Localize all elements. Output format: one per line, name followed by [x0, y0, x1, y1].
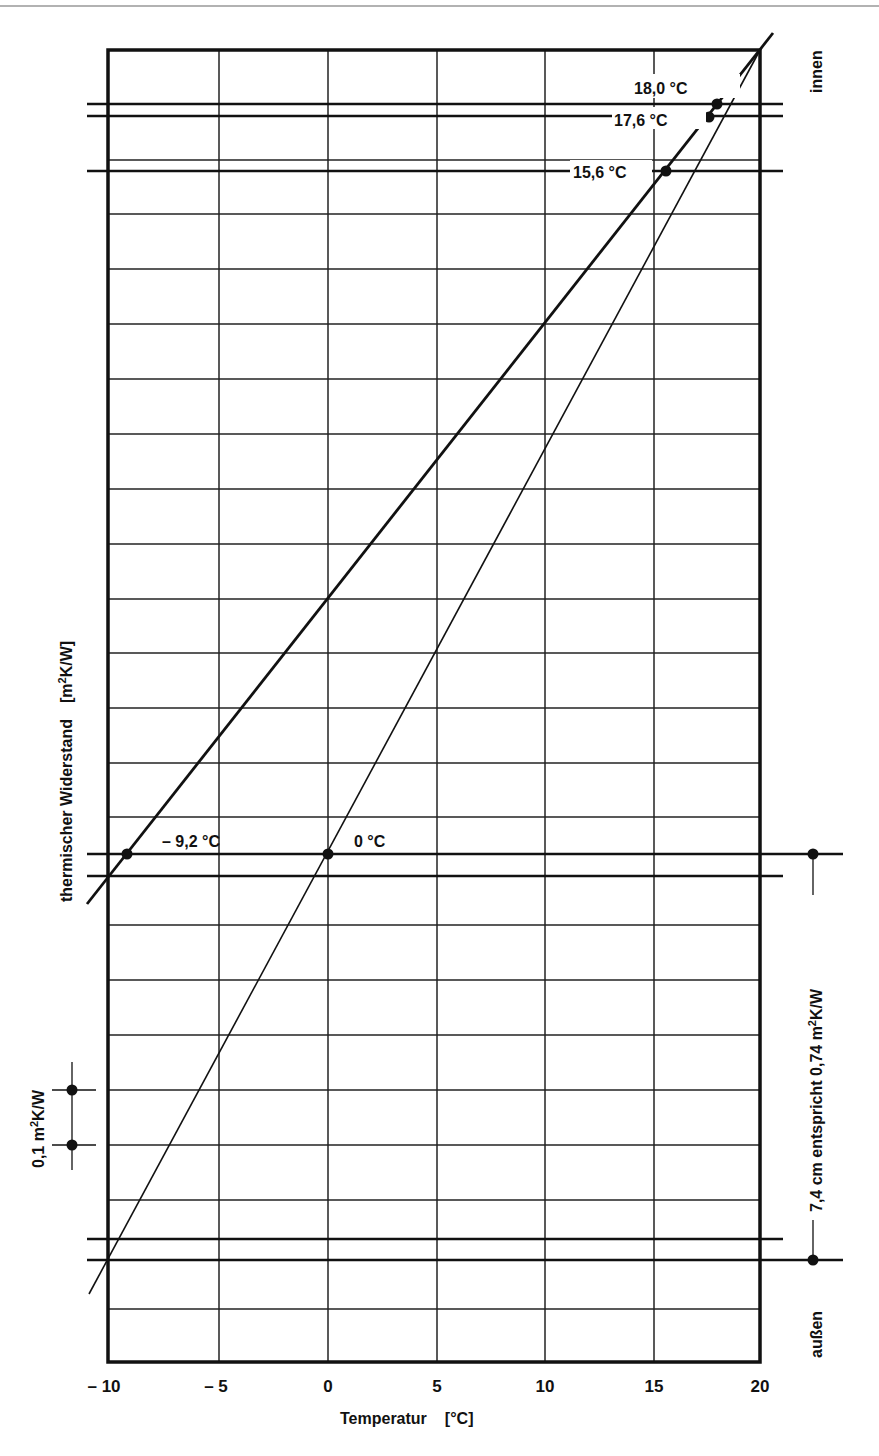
- x-tick: 15: [645, 1377, 664, 1396]
- horizontal-grid: [108, 160, 760, 1309]
- y-axis-title: thermischer Widerstand[m2K/W]: [56, 641, 75, 902]
- x-tick: – 5: [204, 1377, 228, 1396]
- point-18-0: [712, 99, 723, 110]
- thick-temperature-line: [87, 33, 773, 904]
- point-15-6: [661, 166, 672, 177]
- x-axis-ticks: – 10 – 5 0 5 10 15 20: [87, 1377, 769, 1396]
- x-tick: 0: [323, 1377, 332, 1396]
- plot-frame: [108, 50, 760, 1362]
- vertical-grid: [219, 50, 654, 1362]
- x-axis-title: Temperatur[°C]: [340, 1410, 473, 1427]
- label-17-6: 17,6 °C: [614, 112, 668, 129]
- x-tick: 20: [751, 1377, 770, 1396]
- left-scale-note: 0,1 m2K/W: [28, 1089, 47, 1168]
- x-tick: – 10: [87, 1377, 120, 1396]
- label-15-6: 15,6 °C: [573, 164, 627, 181]
- point-minus-9-2: [122, 849, 133, 860]
- x-tick: 5: [432, 1377, 441, 1396]
- label-innen: innen: [808, 50, 825, 93]
- label-0: 0 °C: [354, 833, 386, 850]
- thin-temperature-line: [89, 50, 760, 1294]
- label-minus-9-2: – 9,2 °C: [162, 833, 220, 850]
- label-aussen: außen: [808, 1311, 825, 1358]
- x-tick: 10: [536, 1377, 555, 1396]
- label-18-0: 18,0 °C: [634, 80, 688, 97]
- point-0: [323, 849, 334, 860]
- left-scale-marker: [52, 1062, 96, 1170]
- temperature-resistance-diagram: 18,0 °C 17,6 °C 15,6 °C – 9,2 °C 0 °C in…: [0, 0, 879, 1456]
